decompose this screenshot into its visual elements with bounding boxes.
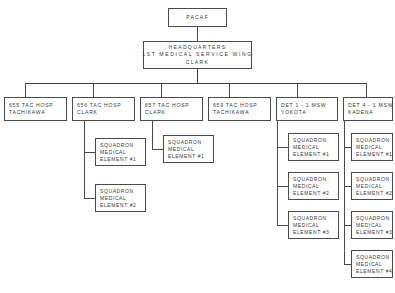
sme-det4-3-line-2: MEDICAL — [352, 222, 382, 229]
node-det-1-1-msw[interactable]: DET 1 - 1 MSW YOKOTA — [276, 97, 338, 121]
sme-656-2-line-3: ELEMENT #2 — [96, 202, 136, 209]
node-655-line-2: TACHIKAWA — [5, 109, 45, 116]
sme-det4-2-line-2: MEDICAL — [352, 183, 382, 190]
connector-det4-to-element-4 — [344, 264, 351, 265]
sme-det4-2-line-3: ELEMENT #2 — [352, 190, 392, 197]
connector-bus-to-656 — [93, 83, 94, 97]
sme-656-1-line-1: SQUADRON — [96, 142, 134, 149]
node-656-line-2: CLARK — [73, 109, 98, 116]
connector-656-spine — [84, 121, 85, 198]
connector-bus-to-655 — [25, 83, 26, 97]
sme-det4-1-line-1: SQUADRON — [352, 137, 390, 144]
node-det4-line-1: DET 4 - 1 MSW — [344, 102, 393, 109]
sme-656-2-line-2: MEDICAL — [96, 195, 126, 202]
node-headquarters[interactable]: HEADQUARTERS 1ST MEDICAL SERVICE WING CL… — [143, 41, 252, 69]
node-659-line-1: 659 TAC HOSP — [209, 102, 257, 109]
node-sme-det4-2[interactable]: SQUADRON MEDICAL ELEMENT #2 — [351, 172, 393, 200]
connector-det4-to-element-3 — [344, 225, 351, 226]
node-657-line-2: CLARK — [141, 109, 166, 116]
sme-det4-1-line-3: ELEMENT #1 — [352, 151, 392, 158]
node-655-line-1: 655 TAC HOSP — [5, 102, 53, 109]
sme-det1-2-line-3: ELEMENT #2 — [289, 190, 329, 197]
connector-horizontal-bus — [25, 83, 366, 84]
sme-657-1-line-3: ELEMENT #1 — [164, 153, 204, 160]
sme-det1-2-line-1: SQUADRON — [289, 176, 327, 183]
node-det4-line-2: KADENA — [344, 109, 373, 116]
sme-det4-4-line-1: SQUADRON — [352, 254, 390, 261]
node-657-tac-hosp[interactable]: 657 TAC HOSP CLARK — [140, 97, 203, 121]
node-sme-656-2[interactable]: SQUADRON MEDICAL ELEMENT #2 — [95, 184, 146, 212]
connector-det1-to-element-3 — [277, 225, 288, 226]
org-chart-canvas: PACAF HEADQUARTERS 1ST MEDICAL SERVICE W… — [0, 0, 395, 293]
headquarters-line-1: HEADQUARTERS — [167, 44, 229, 51]
node-659-line-2: TACHIKAWA — [209, 109, 249, 116]
node-sme-656-1[interactable]: SQUADRON MEDICAL ELEMENT #1 — [95, 138, 146, 166]
connector-bus-to-659 — [229, 83, 230, 97]
connector-det4-to-element-1 — [344, 147, 351, 148]
sme-657-1-line-1: SQUADRON — [164, 139, 202, 146]
sme-det4-4-line-2: MEDICAL — [352, 261, 382, 268]
sme-det4-1-line-2: MEDICAL — [352, 144, 382, 151]
sme-det1-1-line-1: SQUADRON — [289, 137, 327, 144]
sme-det1-1-line-3: ELEMENT #1 — [289, 151, 329, 158]
node-det1-line-1: DET 1 - 1 MSW — [277, 102, 326, 109]
connector-657-to-element-1 — [152, 149, 163, 150]
node-656-tac-hosp[interactable]: 656 TAC HOSP CLARK — [72, 97, 135, 121]
sme-det1-2-line-2: MEDICAL — [289, 183, 319, 190]
sme-656-2-line-1: SQUADRON — [96, 188, 134, 195]
connector-657-spine — [152, 121, 153, 150]
connector-det1-to-element-1 — [277, 147, 288, 148]
node-659-tac-hosp[interactable]: 659 TAC HOSP TACHIKAWA — [208, 97, 271, 121]
sme-det4-3-line-1: SQUADRON — [352, 215, 390, 222]
connector-pacaf-to-hq — [197, 27, 198, 41]
node-657-line-1: 657 TAC HOSP — [141, 102, 189, 109]
sme-656-1-line-3: ELEMENT #1 — [96, 156, 136, 163]
sme-656-1-line-2: MEDICAL — [96, 149, 126, 156]
node-sme-det1-1[interactable]: SQUADRON MEDICAL ELEMENT #1 — [288, 133, 339, 161]
connector-det4-to-element-2 — [344, 186, 351, 187]
node-sme-det4-1[interactable]: SQUADRON MEDICAL ELEMENT #1 — [351, 133, 393, 161]
sme-det1-3-line-3: ELEMENT #3 — [289, 229, 329, 236]
node-sme-det1-2[interactable]: SQUADRON MEDICAL ELEMENT #2 — [288, 172, 339, 200]
connector-bus-to-det1 — [297, 83, 298, 97]
sme-det1-1-line-2: MEDICAL — [289, 144, 319, 151]
node-sme-det4-3[interactable]: SQUADRON MEDICAL ELEMENT #3 — [351, 211, 393, 239]
node-pacaf[interactable]: PACAF — [168, 8, 227, 27]
connector-det1-spine — [277, 121, 278, 225]
connector-det1-to-element-2 — [277, 186, 288, 187]
node-sme-657-1[interactable]: SQUADRON MEDICAL ELEMENT #1 — [163, 135, 214, 163]
node-pacaf-label: PACAF — [184, 14, 210, 21]
connector-656-to-element-2 — [84, 198, 95, 199]
connector-bus-to-657 — [161, 83, 162, 97]
node-sme-det4-4[interactable]: SQUADRON MEDICAL ELEMENT #4 — [351, 250, 393, 278]
node-det1-line-2: YOKOTA — [277, 109, 306, 116]
sme-det4-2-line-1: SQUADRON — [352, 176, 390, 183]
connector-hq-to-bus — [197, 69, 198, 83]
node-656-line-1: 656 TAC HOSP — [73, 102, 121, 109]
sme-det4-4-line-3: ELEMENT #4 — [352, 268, 392, 275]
sme-det1-3-line-1: SQUADRON — [289, 215, 327, 222]
node-det-4-1-msw[interactable]: DET 4 - 1 MSW KADENA — [343, 97, 393, 121]
headquarters-line-3: CLARK — [184, 59, 212, 66]
sme-det1-3-line-2: MEDICAL — [289, 222, 319, 229]
node-655-tac-hosp[interactable]: 655 TAC HOSP TACHIKAWA — [4, 97, 67, 121]
connector-bus-to-det4 — [366, 83, 367, 97]
headquarters-line-2: 1ST MEDICAL SERVICE WING — [140, 51, 254, 58]
connector-656-to-element-1 — [84, 152, 95, 153]
node-sme-det1-3[interactable]: SQUADRON MEDICAL ELEMENT #3 — [288, 211, 339, 239]
sme-657-1-line-2: MEDICAL — [164, 146, 194, 153]
sme-det4-3-line-3: ELEMENT #3 — [352, 229, 392, 236]
connector-det4-spine — [344, 121, 345, 264]
